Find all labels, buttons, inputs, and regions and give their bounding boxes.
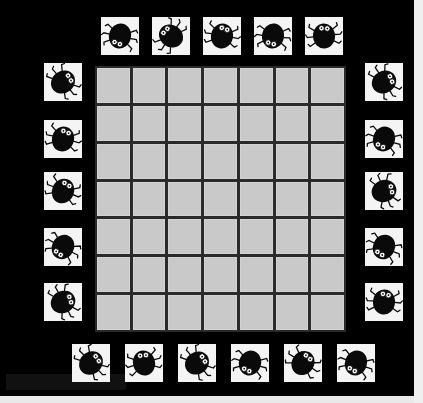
bug-icon	[359, 222, 410, 273]
grid-cell-r6-c1[interactable]	[97, 257, 130, 292]
bug-tile-top-5[interactable]	[305, 17, 343, 55]
bug-tile-bottom-4[interactable]	[231, 344, 269, 382]
bug-tile-top-4[interactable]	[254, 17, 292, 55]
grid-cell-r5-c5[interactable]	[240, 219, 273, 254]
bug-tile-left-3[interactable]	[44, 172, 82, 210]
bug-icon	[170, 336, 223, 389]
grid-cell-r5-c6[interactable]	[276, 219, 309, 254]
grid-cell-r4-c2[interactable]	[133, 182, 166, 217]
bug-tile-left-5[interactable]	[44, 283, 82, 321]
bug-icon	[360, 167, 409, 216]
grid-cell-r4-c5[interactable]	[240, 182, 273, 217]
bug-tile-left-2[interactable]	[44, 120, 82, 158]
bug-tile-left-4[interactable]	[44, 228, 82, 266]
grid-cell-r2-c2[interactable]	[133, 106, 166, 141]
grid-cell-r3-c6[interactable]	[276, 144, 309, 179]
bug-tile-left-1[interactable]	[44, 63, 82, 101]
grid-cell-r6-c3[interactable]	[168, 257, 201, 292]
grid-cell-r6-c7[interactable]	[311, 257, 344, 292]
grid-cell-r4-c1[interactable]	[97, 182, 130, 217]
grid-cell-r7-c7[interactable]	[311, 295, 344, 330]
bug-icon	[144, 9, 197, 62]
grid-cell-r3-c2[interactable]	[133, 144, 166, 179]
grid-cell-r4-c4[interactable]	[204, 182, 237, 217]
bug-tile-right-5[interactable]	[365, 283, 403, 321]
grid-cell-r6-c2[interactable]	[133, 257, 166, 292]
bug-icon	[226, 339, 274, 387]
bug-icon	[38, 166, 88, 216]
bug-tile-right-1[interactable]	[365, 63, 403, 101]
bug-icon	[360, 115, 409, 164]
grid-cell-r7-c2[interactable]	[133, 295, 166, 330]
grid-cell-r6-c4[interactable]	[204, 257, 237, 292]
grid-cell-r7-c5[interactable]	[240, 295, 273, 330]
grid-cell-r3-c1[interactable]	[97, 144, 130, 179]
board-edge-right	[414, 0, 423, 403]
bug-icon	[199, 13, 244, 58]
grid-cell-r3-c7[interactable]	[311, 144, 344, 179]
grid-cell-r1-c7[interactable]	[311, 68, 344, 103]
bug-icon	[304, 16, 345, 57]
grid-cell-r4-c3[interactable]	[168, 182, 201, 217]
bug-icon	[64, 336, 118, 390]
bug-icon	[36, 55, 89, 108]
grid-cell-r3-c4[interactable]	[204, 144, 237, 179]
grid-cell-r1-c2[interactable]	[133, 68, 166, 103]
grid-cell-r1-c1[interactable]	[97, 68, 130, 103]
bug-tile-bottom-1[interactable]	[72, 344, 110, 382]
grid-cell-r2-c7[interactable]	[311, 106, 344, 141]
bug-icon	[38, 277, 89, 328]
grid-cell-r5-c2[interactable]	[133, 219, 166, 254]
bug-tile-right-4[interactable]	[365, 228, 403, 266]
bug-icon	[331, 338, 380, 387]
bug-tile-top-3[interactable]	[203, 17, 241, 55]
board-game-screenshot: Bug / Beetle Board Game Top-down photo o…	[0, 0, 423, 403]
grid-cell-r6-c6[interactable]	[276, 257, 309, 292]
bug-icon	[358, 56, 410, 108]
grid-cell-r4-c6[interactable]	[276, 182, 309, 217]
grid-cell-r3-c3[interactable]	[168, 144, 201, 179]
grid-cell-r5-c1[interactable]	[97, 219, 130, 254]
bug-tile-bottom-2[interactable]	[125, 344, 163, 382]
grid-cell-r2-c1[interactable]	[97, 106, 130, 141]
grid-cell-r5-c4[interactable]	[204, 219, 237, 254]
grid-cell-r4-c7[interactable]	[311, 182, 344, 217]
grid-cell-r5-c7[interactable]	[311, 219, 344, 254]
bug-tile-right-3[interactable]	[365, 172, 403, 210]
grid-cell-r2-c3[interactable]	[168, 106, 201, 141]
playing-grid[interactable]	[95, 66, 346, 332]
grid-cell-r1-c6[interactable]	[276, 68, 309, 103]
bug-tile-top-2[interactable]	[152, 17, 190, 55]
grid-cell-r1-c4[interactable]	[204, 68, 237, 103]
bug-tile-bottom-5[interactable]	[284, 344, 322, 382]
grid-cell-r7-c4[interactable]	[204, 295, 237, 330]
bug-tile-bottom-6[interactable]	[337, 344, 375, 382]
bug-tile-bottom-3[interactable]	[178, 344, 216, 382]
grid-cell-r5-c3[interactable]	[168, 219, 201, 254]
grid-cell-r2-c6[interactable]	[276, 106, 309, 141]
bug-icon	[97, 13, 143, 59]
bug-icon	[252, 15, 295, 58]
grid-cell-r1-c5[interactable]	[240, 68, 273, 103]
bug-icon	[363, 281, 405, 323]
grid-cell-r3-c5[interactable]	[240, 144, 273, 179]
bug-tile-right-2[interactable]	[365, 120, 403, 158]
grid-cell-r1-c3[interactable]	[168, 68, 201, 103]
bug-icon	[121, 340, 167, 386]
grid-cell-r7-c6[interactable]	[276, 295, 309, 330]
grid-cell-r7-c1[interactable]	[97, 295, 130, 330]
bug-icon	[39, 115, 86, 162]
bug-icon	[277, 337, 330, 390]
grid-cell-r2-c4[interactable]	[204, 106, 237, 141]
grid-cell-r6-c5[interactable]	[240, 257, 273, 292]
board-edge-bottom	[0, 396, 423, 403]
bug-tile-top-1[interactable]	[101, 17, 139, 55]
bug-icon	[37, 221, 89, 273]
grid-cell-r7-c3[interactable]	[168, 295, 201, 330]
grid-cell-r2-c5[interactable]	[240, 106, 273, 141]
